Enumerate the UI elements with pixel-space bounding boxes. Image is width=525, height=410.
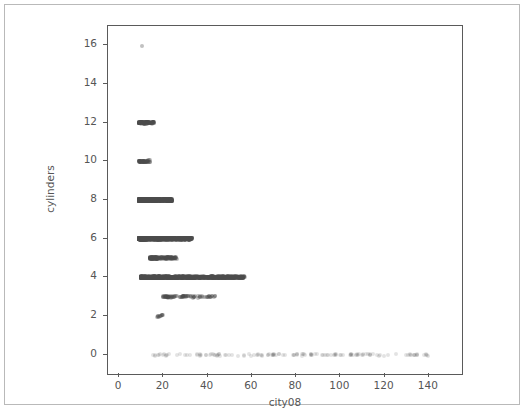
y-tick-label: 10 (57, 154, 97, 165)
x-tick-mark (162, 373, 163, 377)
x-tick-label: 140 (398, 380, 458, 391)
y-tick-mark (103, 315, 107, 316)
y-tick-mark (103, 160, 107, 161)
y-tick-label: 14 (57, 77, 97, 88)
figure-frame: 0246810121416 020406080100120140 city08 … (4, 4, 520, 405)
x-tick-mark (295, 373, 296, 377)
scatter-plot-area[interactable] (107, 25, 463, 375)
x-tick-mark (251, 373, 252, 377)
y-tick-mark (103, 83, 107, 84)
y-tick-label: 4 (57, 270, 97, 281)
y-tick-mark (103, 238, 107, 239)
y-tick-label: 8 (57, 193, 97, 204)
y-tick-mark (103, 122, 107, 123)
x-axis-label: city08 (107, 396, 463, 408)
x-tick-mark (118, 373, 119, 377)
y-tick-label: 0 (57, 348, 97, 359)
y-tick-mark (103, 44, 107, 45)
y-tick-label: 2 (57, 309, 97, 320)
y-tick-label: 12 (57, 116, 97, 127)
y-tick-label: 16 (57, 38, 97, 49)
x-tick-mark (428, 373, 429, 377)
y-axis-label: cylinders (44, 129, 56, 249)
y-tick-mark (103, 199, 107, 200)
y-tick-label: 6 (57, 232, 97, 243)
x-tick-mark (384, 373, 385, 377)
x-tick-mark (339, 373, 340, 377)
y-tick-mark (103, 276, 107, 277)
x-tick-mark (207, 373, 208, 377)
y-tick-mark (103, 354, 107, 355)
